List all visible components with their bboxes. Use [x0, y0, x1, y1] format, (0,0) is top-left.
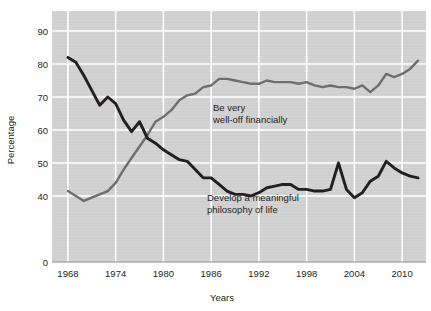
y-tick-label: 70 — [37, 92, 48, 103]
x-tick-label: 1968 — [57, 268, 78, 279]
y-tick-label: 80 — [37, 59, 48, 70]
y-tick-labels: 0405060708090 — [37, 26, 48, 269]
x-axis-title: Years — [210, 292, 234, 303]
x-tick-label: 2004 — [344, 268, 365, 279]
y-tick-label: 40 — [37, 191, 48, 202]
x-tick-label: 2010 — [392, 268, 413, 279]
y-axis-title: Percentage — [5, 116, 16, 165]
annotation-line: Develop a meaningful — [207, 192, 299, 203]
y-tick-label: 0 — [43, 257, 48, 268]
annotation-line: philosophy of life — [207, 204, 278, 215]
x-tick-label: 1986 — [201, 268, 222, 279]
annotation-line: well-off financially — [212, 114, 288, 125]
line-chart: 0405060708090 19681974198019861992199820… — [0, 0, 431, 311]
x-tick-label: 1980 — [153, 268, 174, 279]
x-tick-labels: 19681974198019861992199820042010 — [57, 268, 412, 279]
y-tick-label: 50 — [37, 158, 48, 169]
annotation-line: Be very — [213, 102, 245, 113]
x-tick-label: 1992 — [248, 268, 269, 279]
x-tick-label: 1974 — [105, 268, 126, 279]
y-tick-label: 90 — [37, 26, 48, 37]
x-tick-label: 1998 — [296, 268, 317, 279]
y-tick-label: 60 — [37, 125, 48, 136]
chart-container: 0405060708090 19681974198019861992199820… — [0, 0, 431, 311]
